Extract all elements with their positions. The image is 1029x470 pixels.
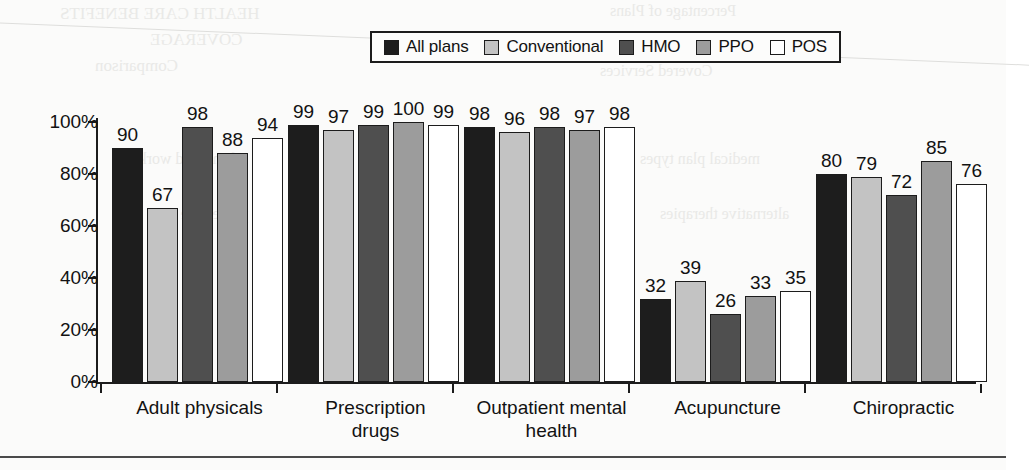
bar-value-label: 98: [539, 104, 560, 123]
bar-item[interactable]: 39: [675, 255, 706, 382]
x-axis-tick-mark: [628, 384, 630, 393]
y-axis-tick-label: 20%: [36, 319, 98, 341]
bar-item[interactable]: 100: [393, 96, 424, 382]
bar-item[interactable]: 98: [182, 101, 213, 382]
bar-value-label: 76: [961, 161, 982, 180]
bar-value-label: 33: [750, 273, 771, 292]
bar[interactable]: [252, 138, 283, 382]
bar-group: 9067988894: [112, 112, 287, 382]
y-axis-tick-label: 100%: [36, 111, 98, 133]
bar-value-label: 79: [856, 154, 877, 173]
bar[interactable]: [886, 195, 917, 382]
bar[interactable]: [288, 125, 319, 382]
bar-item[interactable]: 72: [886, 169, 917, 382]
x-axis-tick-mark: [452, 384, 454, 393]
bar-item[interactable]: 85: [921, 135, 952, 382]
x-axis-label: Adult physicals: [105, 396, 295, 419]
y-axis-tick-label: 80%: [36, 163, 98, 185]
bar[interactable]: [147, 208, 178, 382]
bar-value-label: 97: [328, 107, 349, 126]
page-bottom-rule: [0, 456, 1006, 458]
x-axis-tick-mark: [980, 384, 982, 393]
bar[interactable]: [112, 148, 143, 382]
bar[interactable]: [323, 130, 354, 382]
bar[interactable]: [428, 125, 459, 382]
bar-value-label: 35: [785, 268, 806, 287]
bar-value-label: 39: [680, 258, 701, 277]
bar-value-label: 85: [926, 138, 947, 157]
bar-item[interactable]: 76: [956, 158, 987, 382]
bar-item[interactable]: 88: [217, 127, 248, 382]
bar-item[interactable]: 90: [112, 122, 143, 382]
bar[interactable]: [780, 291, 811, 382]
x-axis-label: Chiropractic: [809, 396, 999, 419]
x-axis-tick-mark: [804, 384, 806, 393]
bar[interactable]: [640, 299, 671, 382]
bar-item[interactable]: 67: [147, 182, 178, 382]
y-axis-tick-label: 60%: [36, 215, 98, 237]
bar[interactable]: [604, 127, 635, 382]
bar-item[interactable]: 33: [745, 270, 776, 382]
bar-value-label: 26: [715, 291, 736, 310]
bar[interactable]: [393, 122, 424, 382]
bar-item[interactable]: 98: [534, 101, 565, 382]
bar[interactable]: [499, 132, 530, 382]
bar-value-label: 98: [609, 104, 630, 123]
y-axis-tick-label: 40%: [36, 267, 98, 289]
bar[interactable]: [956, 184, 987, 382]
x-axis: [96, 382, 976, 384]
bar-item[interactable]: 97: [323, 104, 354, 382]
x-axis-label: Prescription drugs: [281, 396, 471, 442]
bar[interactable]: [534, 127, 565, 382]
x-axis-label: Outpatient mental health: [457, 396, 647, 442]
bar-value-label: 99: [363, 102, 384, 121]
bar[interactable]: [182, 127, 213, 382]
bar[interactable]: [921, 161, 952, 382]
bar-item[interactable]: 35: [780, 265, 811, 382]
bar[interactable]: [217, 153, 248, 382]
bar-value-label: 67: [152, 185, 173, 204]
bar-item[interactable]: 99: [288, 99, 319, 382]
bar-item[interactable]: 98: [464, 101, 495, 382]
y-axis-tick-label: 0%: [36, 371, 98, 393]
bar-item[interactable]: 94: [252, 112, 283, 382]
bar-value-label: 99: [293, 102, 314, 121]
bar[interactable]: [710, 314, 741, 382]
bar-item[interactable]: 79: [851, 151, 882, 382]
bar-group: 8079728576: [816, 112, 991, 382]
bar-value-label: 90: [117, 125, 138, 144]
x-axis-tick-mark: [100, 384, 102, 393]
bar-item[interactable]: 99: [428, 99, 459, 382]
bar-item[interactable]: 80: [816, 148, 847, 382]
bar-value-label: 100: [393, 99, 425, 118]
bar[interactable]: [569, 130, 600, 382]
bar-value-label: 94: [257, 115, 278, 134]
bar-value-label: 32: [645, 276, 666, 295]
bar-group: 3239263335: [640, 112, 815, 382]
bar-item[interactable]: 26: [710, 288, 741, 382]
bar-item[interactable]: 99: [358, 99, 389, 382]
bar[interactable]: [464, 127, 495, 382]
bar-value-label: 98: [187, 104, 208, 123]
bar-item[interactable]: 98: [604, 101, 635, 382]
x-axis-label: Acupuncture: [633, 396, 823, 419]
bar-item[interactable]: 32: [640, 273, 671, 382]
bar[interactable]: [745, 296, 776, 382]
bar-value-label: 97: [574, 107, 595, 126]
y-axis: [96, 118, 98, 384]
bar-item[interactable]: 96: [499, 106, 530, 382]
bar-value-label: 96: [504, 109, 525, 128]
bar[interactable]: [358, 125, 389, 382]
bar-group: 9896989798: [464, 112, 639, 382]
bar[interactable]: [851, 177, 882, 382]
bar[interactable]: [675, 281, 706, 382]
bar-group: 99979910099: [288, 112, 463, 382]
bar-value-label: 80: [821, 151, 842, 170]
bar-value-label: 72: [891, 172, 912, 191]
bar-item[interactable]: 97: [569, 104, 600, 382]
bar-value-label: 99: [433, 102, 454, 121]
bar-value-label: 98: [469, 104, 490, 123]
bar[interactable]: [816, 174, 847, 382]
